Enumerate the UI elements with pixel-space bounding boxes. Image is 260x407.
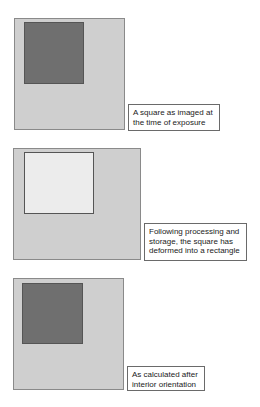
exposure-square xyxy=(24,22,84,84)
caption-line: interior orientation xyxy=(132,380,200,390)
caption-line: A square as imaged at xyxy=(133,108,215,118)
deformed-rectangle xyxy=(24,152,94,214)
calculated-square xyxy=(22,283,83,344)
caption-line: deformed into a rectangle xyxy=(149,246,242,256)
caption-line: the time of exposure xyxy=(133,118,215,128)
caption-line: Following processing and xyxy=(149,227,242,237)
caption-line: As calculated after xyxy=(132,370,200,380)
exposure-caption: A square as imaged at the time of exposu… xyxy=(128,104,220,131)
processed-caption: Following processing and storage, the sq… xyxy=(144,223,247,261)
caption-line: storage, the square has xyxy=(149,237,242,247)
calculated-caption: As calculated after interior orientation xyxy=(127,366,205,391)
